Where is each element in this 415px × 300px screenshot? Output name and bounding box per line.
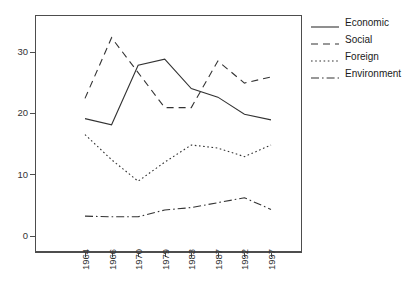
chart-figure: 3020100 19641966197019791983198719921997… <box>0 0 415 300</box>
legend-label: Economic <box>345 17 389 28</box>
series-line-social <box>85 38 271 108</box>
series-lines <box>36 16 301 251</box>
y-tick-30: 30 <box>17 47 35 57</box>
y-tick-label: 30 <box>17 47 28 57</box>
y-tick-20: 20 <box>17 108 35 118</box>
x-tick-label: 1970 <box>133 249 144 270</box>
y-tick-label: 0 <box>23 231 28 241</box>
x-tick-1966: 1966 <box>112 252 113 257</box>
x-tick-1983: 1983 <box>191 252 192 257</box>
x-axis: 19641966197019791983198719921997 <box>0 252 415 300</box>
legend-item-economic: Economic <box>310 14 415 31</box>
x-tick-label: 1987 <box>213 249 224 270</box>
legend-label: Social <box>345 34 372 45</box>
y-tick-label: 20 <box>17 108 28 118</box>
x-tick-label: 1964 <box>80 249 91 270</box>
legend-item-environment: Environment <box>310 65 415 82</box>
x-tick-label: 1979 <box>160 249 171 270</box>
plot-area <box>35 15 302 252</box>
legend-label: Foreign <box>345 51 379 62</box>
x-tick-1997: 1997 <box>271 252 272 257</box>
y-tick-0: 0 <box>23 231 35 241</box>
legend-key-icon <box>310 69 340 79</box>
x-tick-label: 1983 <box>186 249 197 270</box>
x-tick-1964: 1964 <box>85 252 86 257</box>
legend-key-icon <box>310 18 340 28</box>
x-tick-1970: 1970 <box>138 252 139 257</box>
legend-item-foreign: Foreign <box>310 48 415 65</box>
x-tick-1979: 1979 <box>165 252 166 257</box>
x-tick-label: 1966 <box>107 249 118 270</box>
x-tick-label: 1997 <box>266 249 277 270</box>
legend-label: Environment <box>345 68 401 79</box>
legend-key-icon <box>310 52 340 62</box>
x-tick-1987: 1987 <box>218 252 219 257</box>
legend-item-social: Social <box>310 31 415 48</box>
series-line-economic <box>85 59 271 125</box>
chart-legend: EconomicSocialForeignEnvironment <box>310 14 415 82</box>
y-tick-10: 10 <box>17 170 35 180</box>
legend-key-icon <box>310 35 340 45</box>
x-tick-label: 1992 <box>239 249 250 270</box>
series-line-foreign <box>85 135 271 182</box>
series-line-environment <box>85 198 271 217</box>
y-tick-label: 10 <box>17 170 28 180</box>
x-tick-1992: 1992 <box>244 252 245 257</box>
